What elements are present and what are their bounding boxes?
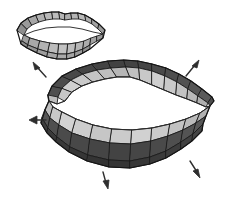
lip-mesh-figure [0, 0, 248, 199]
figure-root [0, 0, 248, 199]
